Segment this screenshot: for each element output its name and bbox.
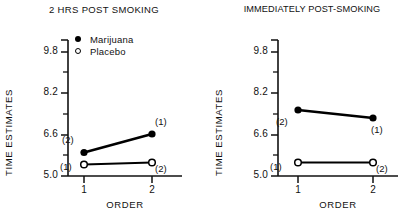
x-tick-label-right-0: 1 [288, 184, 308, 195]
legend-label-marijuana: Marijuana [90, 34, 134, 45]
panel-immediately-post-smoking: IMMEDIATELY POST-SMOKING TIME ESTIMATES [208, 0, 416, 219]
point-annotation-left-marijuana-1: (2) [62, 134, 74, 145]
legend-item-marijuana: Marijuana [75, 33, 134, 45]
y-tick-label-right-0: 9.8 [236, 45, 268, 56]
point-annotation-right-marijuana-1: (2) [276, 116, 288, 127]
y-tick-label-left-1: 8.2 [26, 86, 58, 97]
y-tick-label-right-2: 6.6 [236, 128, 268, 139]
x-tick-label-left-0: 1 [74, 184, 94, 195]
point-annotation-left-placebo-2: (2) [155, 163, 167, 174]
y-tick-label-left-3: 5.0 [26, 169, 58, 180]
legend-left: Marijuana Placebo [75, 33, 134, 57]
x-axis-label-right: ORDER [278, 199, 398, 210]
x-tick-label-right-1: 2 [363, 184, 383, 195]
point-annotation-left-marijuana-2: (1) [155, 116, 167, 127]
filled-circle-icon [75, 36, 87, 42]
y-tick-label-left-0: 9.8 [26, 45, 58, 56]
panel-2hrs-post-smoking: 2 HRS POST SMOKING TIME ESTIMATES [0, 0, 208, 219]
plot-area-right [208, 0, 416, 219]
figure-two-panel-line-charts: 2 HRS POST SMOKING TIME ESTIMATES [0, 0, 416, 219]
y-tick-label-left-2: 6.6 [26, 128, 58, 139]
y-tick-label-right-1: 8.2 [236, 86, 268, 97]
point-annotation-right-marijuana-2: (1) [371, 124, 383, 135]
open-circle-icon [75, 48, 87, 54]
x-axis-label-left: ORDER [68, 199, 182, 210]
point-annotation-right-placebo-1: (1) [270, 161, 282, 172]
x-tick-label-left-1: 2 [142, 184, 162, 195]
y-tick-label-right-3: 5.0 [236, 169, 268, 180]
legend-label-placebo: Placebo [90, 46, 126, 57]
point-annotation-left-placebo-1: (1) [60, 161, 72, 172]
point-annotation-right-placebo-2: (2) [376, 163, 388, 174]
legend-item-placebo: Placebo [75, 45, 134, 57]
